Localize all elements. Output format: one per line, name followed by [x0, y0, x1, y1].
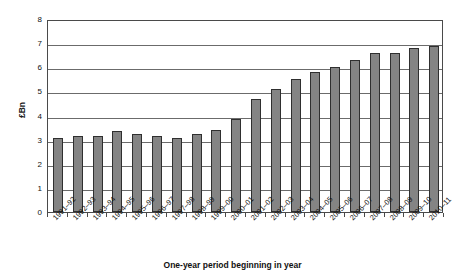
y-tick-label: 0 [22, 209, 42, 217]
bar [53, 138, 63, 212]
y-tick-label: 8 [22, 16, 42, 24]
y-tick-label: 2 [22, 161, 42, 169]
y-tick-label: 1 [22, 185, 42, 193]
bar [350, 60, 360, 212]
bar [310, 72, 320, 212]
bars-group [48, 21, 442, 212]
y-tick-label: 3 [22, 137, 42, 145]
plot-area [47, 20, 443, 213]
bar [409, 48, 419, 212]
x-axis-title: One-year period beginning in year [0, 260, 465, 270]
bar [429, 46, 439, 212]
y-axis-tick-labels: 012345678 [22, 14, 42, 214]
y-tick-label: 4 [22, 113, 42, 121]
y-tick-label: 5 [22, 88, 42, 96]
bar [251, 99, 261, 212]
bar [330, 67, 340, 212]
y-tick-label: 6 [22, 64, 42, 72]
bar-chart: £Bn 012345678 1991–921992–931993–941994–… [0, 0, 465, 280]
bar [370, 53, 380, 212]
bar [390, 53, 400, 212]
bar [291, 79, 301, 212]
y-tick-label: 7 [22, 40, 42, 48]
x-axis-tick-labels: 1991–921992–931993–941994–951995–961996–… [47, 216, 447, 258]
bar [271, 89, 281, 212]
